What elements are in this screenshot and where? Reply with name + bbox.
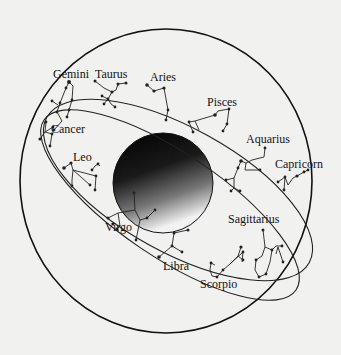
label-capricorn: Capricorn (275, 157, 323, 171)
constellation-pisces: Pisces (188, 95, 238, 133)
central-earth-sphere (113, 133, 213, 233)
label-gemini: Gemini (53, 67, 90, 81)
label-libra: Libra (163, 259, 190, 273)
label-virgo: Virgo (105, 220, 132, 234)
label-taurus: Taurus (95, 67, 128, 81)
constellation-capricorn: Capricorn (275, 157, 323, 191)
constellation-sagittarius: Sagittarius (228, 212, 284, 278)
label-scorpio: Scorpio (200, 277, 237, 291)
label-sagittarius: Sagittarius (228, 212, 280, 226)
label-cancer: Cancer (51, 122, 85, 136)
constellation-taurus: Taurus (94, 67, 128, 108)
constellation-scorpio: Scorpio (200, 245, 244, 291)
label-aries: Aries (150, 70, 176, 84)
zodiac-diagram: Gemini Taurus Aries Pisces (0, 0, 341, 355)
label-pisces: Pisces (207, 95, 237, 109)
label-leo: Leo (73, 150, 92, 164)
constellation-libra: Libra (157, 229, 189, 274)
label-aquarius: Aquarius (246, 132, 290, 146)
